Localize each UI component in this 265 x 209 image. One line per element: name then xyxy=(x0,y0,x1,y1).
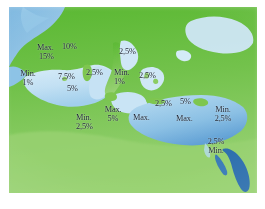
annotation-gabes-max: Max. 5% xyxy=(99,105,127,123)
annotation-value: 2,5% xyxy=(205,114,241,123)
sicily-island xyxy=(105,92,117,101)
annotation-cyprus-max: Max. xyxy=(176,114,193,123)
annotation-value: 15% xyxy=(37,52,54,61)
annotation-alboran-max: Max. 15% xyxy=(37,43,54,61)
annotation-value: 2,5% xyxy=(155,99,172,108)
annotation-ionian-min: Min. 1% xyxy=(114,68,129,86)
annotation-qualifier: Max. xyxy=(176,114,193,123)
annotation-qualifier: Max. xyxy=(99,105,127,114)
annotation-levant-25: 2,5% xyxy=(155,99,172,108)
annotation-adriatic-25: 2,5% xyxy=(119,47,136,56)
annotation-value: 5% xyxy=(180,97,191,106)
annotation-value: 1% xyxy=(11,78,45,87)
annotation-aegean-25: 2,5% xyxy=(139,71,156,80)
annotation-value: 2,5% xyxy=(119,47,136,56)
annotation-qualifier: Min. xyxy=(11,69,45,78)
annotation-gulf-lion-75: 7,5% xyxy=(58,72,75,81)
map-plate: Min. 1% Max. 15% 10% 7,5% 5% 2,5% 2,5% M… xyxy=(9,7,257,193)
annotation-qualifier: Max. xyxy=(37,43,54,52)
annotation-qualifier: Min. xyxy=(76,113,93,122)
annotation-value: 10% xyxy=(62,42,77,51)
annotation-value: 5% xyxy=(67,84,78,93)
map-figure: Min. 1% Max. 15% 10% 7,5% 5% 2,5% 2,5% M… xyxy=(0,0,265,209)
annotation-nile-min: 2,5% Min. xyxy=(199,137,233,155)
annotation-tyrrhenian-25: 2,5% xyxy=(86,68,103,77)
annotation-central-max: Max. xyxy=(133,113,150,122)
annotation-sardinia-5: 5% xyxy=(67,84,78,93)
annotation-value: 7,5% xyxy=(58,72,75,81)
annotation-qualifier: Min. xyxy=(199,146,233,155)
annotation-qualifier: Min. xyxy=(114,68,129,77)
annotation-value: 2,5% xyxy=(76,122,93,131)
mediterranean-map-graphic xyxy=(9,7,257,193)
annotation-balearic-10: 10% xyxy=(62,42,77,51)
annotation-sidra-min: Min. 2,5% xyxy=(76,113,93,131)
annotation-gibraltar-min: Min. 1% xyxy=(11,69,45,87)
annotation-levant-east-min: Min. 2,5% xyxy=(205,105,241,123)
annotation-value: 1% xyxy=(114,77,129,86)
annotation-value: 2,5% xyxy=(199,137,233,146)
annotation-qualifier: Min. xyxy=(205,105,241,114)
annotation-value: 2,5% xyxy=(139,71,156,80)
annotation-qualifier: Max. xyxy=(133,113,150,122)
annotation-levant-5: 5% xyxy=(180,97,191,106)
annotation-value: 2,5% xyxy=(86,68,103,77)
annotation-value: 5% xyxy=(99,114,127,123)
